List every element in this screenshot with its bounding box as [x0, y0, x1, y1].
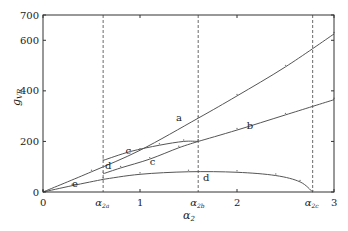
y-tick-label: 0 [33, 187, 39, 198]
data-marker [120, 166, 121, 167]
curve-label-b: b [247, 120, 253, 131]
data-marker [312, 190, 313, 191]
plot-frame [43, 15, 334, 192]
vline-label: α2b [190, 197, 205, 209]
curve-label-d: d [203, 172, 210, 183]
curve-label-a: a [176, 112, 182, 123]
y-axis-label: gVR [10, 88, 24, 106]
curve-label-d: d [105, 160, 112, 171]
data-marker [102, 158, 103, 159]
axis-ticks: α2aα2bα2c01230200400600700 [20, 10, 337, 210]
plot-area: abccdde [42, 15, 334, 192]
curve-label-c: c [150, 156, 156, 167]
data-marker [198, 139, 199, 140]
data-marker [299, 180, 300, 181]
data-marker [236, 94, 237, 95]
vline-label: α2a [95, 197, 110, 209]
series-b [198, 100, 334, 142]
chart: abccdde α2aα2bα2c01230200400600700 gVR α… [0, 0, 348, 231]
x-tick-label: 2 [234, 197, 240, 208]
x-axis-label: α2 [183, 209, 195, 223]
data-marker [285, 65, 286, 66]
data-marker [275, 173, 276, 174]
data-marker [159, 143, 160, 144]
data-marker [139, 172, 140, 173]
x-tick-label: 0 [40, 197, 46, 208]
y-tick-label: 600 [20, 35, 39, 46]
data-marker [178, 146, 179, 147]
y-tick-label: 200 [20, 136, 39, 147]
vline-label: α2c [305, 197, 320, 209]
data-marker [188, 170, 189, 171]
x-tick-label: 3 [331, 197, 337, 208]
y-tick-label: 700 [20, 10, 39, 21]
data-marker [102, 177, 103, 178]
data-marker [198, 116, 199, 117]
data-marker [285, 113, 286, 114]
data-marker [183, 139, 184, 140]
x-tick-label: 1 [137, 197, 143, 208]
data-marker [236, 170, 237, 171]
curve-label-c: c [125, 145, 131, 156]
data-marker [102, 172, 103, 173]
curve-label-e: e [72, 178, 78, 189]
data-marker [91, 170, 92, 171]
data-marker [236, 128, 237, 129]
